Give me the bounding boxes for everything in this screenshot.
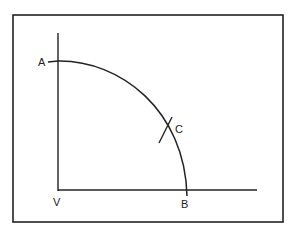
label-b: B xyxy=(181,198,188,210)
label-v: V xyxy=(53,196,61,208)
frame-border xyxy=(13,15,283,222)
label-c: C xyxy=(175,123,183,135)
label-a: A xyxy=(38,56,46,68)
diagram-canvas: A B C V xyxy=(0,0,294,233)
